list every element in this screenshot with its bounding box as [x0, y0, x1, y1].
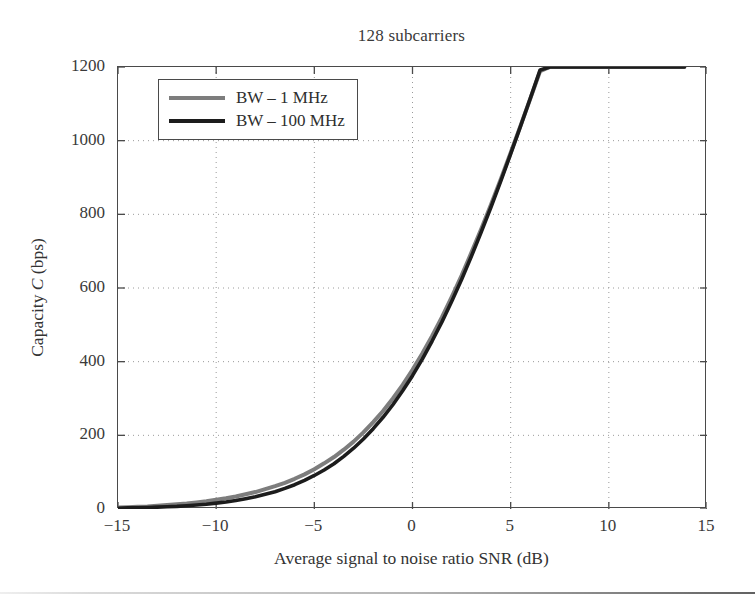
x-tick-label: −15 — [104, 516, 131, 536]
figure-canvas: 128 subcarriers 020040060080010001200 −1… — [0, 0, 755, 600]
legend-color-swatch — [169, 119, 225, 123]
x-tick-label: 15 — [698, 516, 715, 536]
y-tick-label: 0 — [5, 498, 105, 518]
y-tick-label: 600 — [5, 277, 105, 297]
x-axis-label: Average signal to noise ratio SNR (dB) — [117, 548, 706, 569]
y-tick-label: 1000 — [5, 130, 105, 150]
y-axis-label-prefix: Capacity — [27, 290, 47, 357]
y-tick-label: 1200 — [5, 56, 105, 76]
legend-item: BW – 100 MHz — [169, 109, 345, 132]
x-tick-label: 5 — [505, 516, 514, 536]
x-tick-label: 10 — [599, 516, 616, 536]
legend-item-label: BW – 1 MHz — [236, 88, 328, 108]
legend-item-label: BW – 100 MHz — [236, 111, 345, 131]
y-tick-label: 200 — [5, 424, 105, 444]
chart-title: 128 subcarriers — [117, 26, 706, 46]
legend-item: BW – 1 MHz — [169, 86, 345, 109]
legend-color-swatch — [169, 96, 225, 100]
y-tick-label: 800 — [5, 203, 105, 223]
y-axis-label-variable: C — [27, 279, 47, 291]
y-axis-label-suffix: (bps) — [27, 238, 47, 278]
y-tick-label: 400 — [5, 351, 105, 371]
legend-box: BW – 1 MHzBW – 100 MHz — [158, 79, 358, 140]
x-tick-label: −5 — [304, 516, 322, 536]
y-axis-label: Capacity C (bps) — [27, 198, 48, 398]
x-tick-label: 0 — [407, 516, 416, 536]
x-tick-label: −10 — [202, 516, 229, 536]
scan-edge-artifact — [0, 592, 755, 594]
